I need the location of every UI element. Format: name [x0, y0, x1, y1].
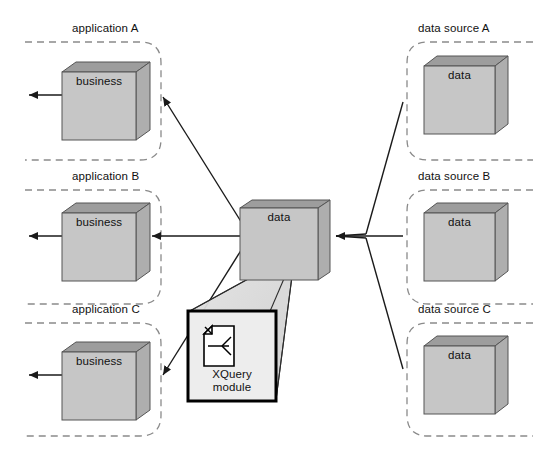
data-source-c-data-box[interactable] [424, 336, 508, 414]
data-source-b-data-box[interactable] [424, 203, 508, 281]
application-c-box-label: business [62, 355, 136, 367]
data-source-a-data-box[interactable] [424, 56, 508, 134]
hub-box-label: data [240, 211, 318, 223]
application-a-box-label: business [62, 75, 136, 87]
application-c-business-box[interactable] [62, 342, 150, 420]
application-b-group-label: application B [72, 170, 139, 182]
connector-data-source-c-to-hub[interactable] [366, 238, 403, 369]
application-a-group-label: application A [72, 22, 139, 34]
xquery-module-label: XQuery module [188, 368, 276, 394]
application-b-business-box[interactable] [62, 203, 150, 281]
application-a-business-box[interactable] [62, 62, 150, 140]
data-source-a-box-label: data [424, 69, 495, 81]
data-source-c-box-label: data [424, 349, 495, 361]
data-source-c-group-label: data source C [418, 303, 491, 315]
data-source-b-group-label: data source B [418, 170, 490, 182]
xquery-document-icon [204, 326, 234, 366]
connector-data-source-a-to-hub[interactable] [366, 102, 403, 234]
connector-hub-to-application-a[interactable] [163, 97, 250, 236]
application-c-group-label: application C [72, 303, 140, 315]
diagram-canvas: application A application B application … [0, 0, 547, 462]
application-b-box-label: business [62, 216, 136, 228]
data-source-a-group-label: data source A [418, 22, 490, 34]
data-source-b-box-label: data [424, 216, 495, 228]
